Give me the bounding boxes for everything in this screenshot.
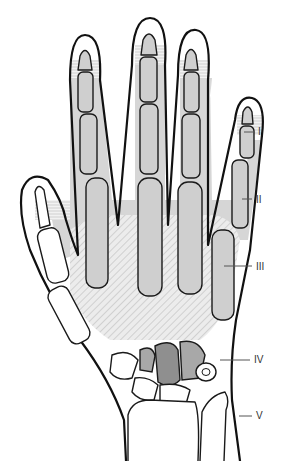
hand-diagram-svg: I II III IV V xyxy=(0,0,298,461)
label-IV: IV xyxy=(254,354,264,365)
label-V: V xyxy=(256,410,263,421)
forearm-bones xyxy=(128,392,228,461)
label-III: III xyxy=(256,261,264,272)
label-II: II xyxy=(256,194,262,205)
carpal-bones xyxy=(110,341,216,404)
hand-anatomy-figure: I II III IV V xyxy=(0,0,298,461)
label-I: I xyxy=(258,126,261,137)
